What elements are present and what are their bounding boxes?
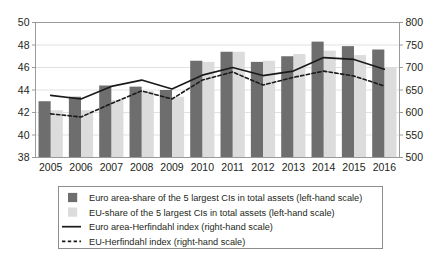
x-axis-tick-label: 2016 bbox=[373, 161, 397, 173]
bar-euro-area-share bbox=[251, 62, 263, 158]
bar-euro-area-share bbox=[160, 90, 172, 158]
right-axis-tick-label: 550 bbox=[406, 129, 424, 141]
x-axis-tick-label: 2011 bbox=[221, 161, 244, 173]
bar-euro-area-share bbox=[39, 101, 51, 157]
right-axis-tick-label: 700 bbox=[406, 61, 424, 73]
x-axis-tick-label: 2010 bbox=[191, 161, 215, 173]
x-axis-tick-label: 2012 bbox=[251, 161, 275, 173]
chart-figure: 38404244464850 500550600650700750800 200… bbox=[0, 0, 448, 268]
bar-eu-share bbox=[202, 62, 214, 158]
bar-eu-share bbox=[324, 51, 336, 158]
left-axis-tick-label: 38 bbox=[18, 151, 30, 163]
x-axis-tick-label: 2013 bbox=[282, 161, 306, 173]
legend-item-label: Euro area-share of the 5 largest CIs in … bbox=[89, 193, 362, 203]
right-axis-tick-label: 650 bbox=[406, 84, 424, 96]
right-axis-tick-label: 600 bbox=[406, 106, 424, 118]
left-axis-tick-label: 50 bbox=[18, 16, 30, 28]
x-axis-tick-label: 2014 bbox=[312, 161, 336, 173]
right-axis-tick-label: 750 bbox=[406, 39, 424, 51]
left-axis-tick-label: 44 bbox=[18, 84, 30, 96]
right-axis-tick-label: 800 bbox=[406, 16, 424, 28]
bar-eu-share bbox=[81, 110, 93, 157]
x-axis-tick-label: 2007 bbox=[100, 161, 124, 173]
bar-eu-share bbox=[354, 55, 366, 157]
bar-eu-share bbox=[51, 110, 63, 157]
bar-euro-area-share bbox=[130, 87, 142, 158]
bar-eu-share bbox=[142, 91, 154, 157]
left-axis-tick-label: 40 bbox=[18, 129, 30, 141]
bar-euro-area-share bbox=[69, 97, 81, 158]
dark-square-swatch bbox=[68, 193, 77, 202]
left-axis-tick-label: 42 bbox=[18, 106, 30, 118]
bar-euro-area-share bbox=[342, 46, 354, 157]
x-axis-tick-label: 2009 bbox=[160, 161, 184, 173]
combo-chart: 38404244464850 500550600650700750800 200… bbox=[0, 0, 448, 268]
bar-eu-share bbox=[384, 68, 396, 158]
x-axis-tick-label: 2006 bbox=[69, 161, 93, 173]
x-axis-tick-label: 2005 bbox=[39, 161, 63, 173]
light-square-swatch bbox=[68, 208, 77, 217]
legend-item-label: Euro area-Herfindahl index (right-hand s… bbox=[89, 222, 273, 232]
x-axis-tick-label: 2008 bbox=[130, 161, 154, 173]
left-axis-tick-label: 46 bbox=[18, 61, 30, 73]
left-axis-tick-label: 48 bbox=[18, 39, 30, 51]
x-axis-tick-label: 2015 bbox=[342, 161, 366, 173]
bar-euro-area-share bbox=[99, 86, 111, 158]
legend-item-label: EU-Herfindahl index (right-hand scale) bbox=[89, 237, 245, 247]
right-axis-tick-label: 500 bbox=[406, 151, 424, 163]
bar-eu-share bbox=[111, 100, 123, 157]
bar-eu-share bbox=[172, 97, 184, 158]
chart-legend: Euro area-share of the 5 largest CIs in … bbox=[59, 187, 383, 249]
legend-item-label: EU-share of the 5 largest CIs in total a… bbox=[89, 208, 335, 218]
